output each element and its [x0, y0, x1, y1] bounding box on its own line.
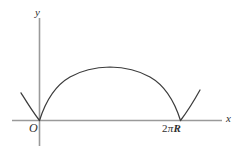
x-tick-label-2piR: 2πR	[162, 123, 181, 134]
cycloid-main-arch-path	[40, 67, 181, 121]
x-tick-radius-symbol: R	[173, 122, 181, 134]
x-axis-label: x	[226, 113, 231, 124]
cycloid-right-partial-arch-path	[181, 90, 201, 121]
cycloid-left-partial-arch-path	[21, 93, 40, 121]
cycloid-figure: y x O 2πR	[0, 0, 238, 159]
origin-label: O	[29, 122, 38, 134]
figure-canvas	[0, 0, 238, 159]
y-axis-label: y	[35, 7, 40, 18]
